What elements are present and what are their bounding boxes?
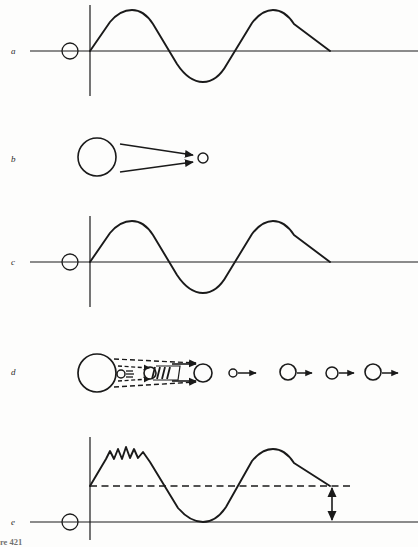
panel-b-arrow-lower xyxy=(120,162,193,172)
panel-d-sequence-item-4 xyxy=(365,364,398,380)
panel-d-emitter-circle xyxy=(78,354,116,392)
panel-label-c: c xyxy=(11,258,15,267)
panel-label-d: d xyxy=(11,368,16,377)
panel-d-dashed-arrow-3 xyxy=(118,366,150,368)
panel-b-arrow-upper xyxy=(120,144,193,155)
panel-d-sequence-item-3 xyxy=(326,367,354,379)
panel-e-waveform xyxy=(90,447,330,522)
panel-a-waveform xyxy=(90,10,330,82)
panel-d-sequence-item-1 xyxy=(229,369,256,377)
panel-d xyxy=(78,354,398,392)
sequence-circle xyxy=(326,367,338,379)
panel-a xyxy=(30,5,418,96)
figure-drawing xyxy=(0,0,418,547)
panel-label-e: e xyxy=(11,518,15,527)
figure-caption-clipped: re 421 xyxy=(0,537,130,547)
panel-d-dashed-arrow-4 xyxy=(118,379,150,381)
panel-b-emitter-circle xyxy=(78,138,116,176)
panel-b xyxy=(78,138,208,176)
sequence-circle xyxy=(229,369,237,377)
panel-d-hatched-particle-2 xyxy=(144,366,180,380)
sequence-circle xyxy=(280,364,296,380)
panel-d-target-circle xyxy=(194,364,212,382)
panel-c-waveform xyxy=(90,221,330,293)
panel-d-dashed-arrow-2 xyxy=(114,382,196,387)
figure-container: a b c d e re 421 xyxy=(0,0,418,547)
panel-e xyxy=(30,437,418,540)
panel-label-b: b xyxy=(11,155,16,164)
panel-d-sequence-item-2 xyxy=(280,364,312,380)
panel-d-hatched-particle-1 xyxy=(117,370,134,378)
sequence-circle xyxy=(365,364,381,380)
panel-b-target-circle xyxy=(198,153,208,163)
panel-d-dashed-arrow-1 xyxy=(114,359,196,363)
panel-c xyxy=(30,216,418,307)
panel-label-a: a xyxy=(11,47,16,56)
